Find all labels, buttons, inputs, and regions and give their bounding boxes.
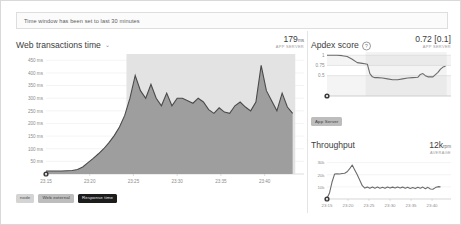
svg-text:1: 1 xyxy=(322,53,325,58)
chevron-down-icon[interactable]: ⌄ xyxy=(105,41,110,48)
svg-text:23:40: 23:40 xyxy=(427,203,439,208)
throughput-value-group: 12krpm AVERAGE xyxy=(429,140,451,155)
apdex-value-group: 0.72 [0.1] APP SERVER xyxy=(415,34,451,49)
svg-text:23:30: 23:30 xyxy=(385,203,397,208)
throughput-header: Throughput 12krpm AVERAGE xyxy=(311,140,451,155)
time-window-banner: Time window has been set to last 30 minu… xyxy=(16,12,448,29)
svg-text:23:15: 23:15 xyxy=(40,179,52,184)
svg-text:50 ms: 50 ms xyxy=(30,159,43,164)
apdex-score-panel: Apdex score? 0.72 [0.1] APP SERVER 0.50.… xyxy=(311,34,451,126)
svg-text:23:30: 23:30 xyxy=(171,179,183,184)
svg-text:150 ms: 150 ms xyxy=(28,134,44,139)
svg-text:23:20: 23:20 xyxy=(343,203,355,208)
throughput-value-number: 12k xyxy=(429,140,443,150)
throughput-svg: 10k20k30k 23:1523:2023:2523:3023:3523:40 xyxy=(311,156,451,212)
throughput-value: 12krpm xyxy=(429,140,451,150)
svg-text:250 ms: 250 ms xyxy=(28,109,44,114)
svg-text:300 ms: 300 ms xyxy=(28,96,44,101)
web-transactions-value-group: 179ms APP SERVER xyxy=(276,34,304,49)
monitoring-dashboard: Time window has been set to last 30 minu… xyxy=(0,0,461,225)
throughput-chart[interactable]: 10k20k30k 23:1523:2023:2523:3023:3523:40 xyxy=(311,156,451,212)
svg-text:450 ms: 450 ms xyxy=(28,58,44,63)
svg-text:350 ms: 350 ms xyxy=(28,83,44,88)
throughput-panel: Throughput 12krpm AVERAGE 10k20k30k 23:1… xyxy=(311,140,451,212)
web-transactions-value-number: 179 xyxy=(284,34,298,44)
svg-text:0.75: 0.75 xyxy=(316,63,325,68)
throughput-gridlines xyxy=(327,163,451,199)
web-transactions-time-panel: Web transactions time⌄ 179ms APP SERVER … xyxy=(16,34,304,212)
throughput-line-series xyxy=(324,165,440,202)
svg-text:23:25: 23:25 xyxy=(364,203,376,208)
web-transactions-y-axis-labels: 50 ms100 ms150 ms200 ms250 ms300 ms350 m… xyxy=(28,58,44,164)
web-transactions-legend: node Web external Response time xyxy=(16,194,117,203)
legend-tag-node[interactable]: node xyxy=(16,194,34,203)
apdex-legend: App Server xyxy=(311,109,342,127)
svg-text:23:35: 23:35 xyxy=(215,179,227,184)
throughput-subtitle: AVERAGE xyxy=(429,150,451,155)
web-transactions-header: Web transactions time⌄ 179ms APP SERVER xyxy=(16,34,304,52)
web-transactions-x-axis-labels: 23:1523:2023:2523:3023:3523:40 xyxy=(40,174,271,184)
web-transactions-chart[interactable]: 50 ms100 ms150 ms200 ms250 ms300 ms350 m… xyxy=(16,52,304,192)
legend-tag-response-time[interactable]: Response time xyxy=(78,194,117,203)
svg-text:23:40: 23:40 xyxy=(259,179,271,184)
web-transactions-value-unit: ms xyxy=(298,38,304,43)
apdex-title: Apdex score xyxy=(311,40,359,50)
throughput-x-axis-labels: 23:1523:2023:2523:3023:3523:40 xyxy=(322,199,439,208)
svg-text:23:25: 23:25 xyxy=(128,179,140,184)
apdex-subtitle: APP SERVER xyxy=(415,44,451,49)
svg-text:23:20: 23:20 xyxy=(84,179,96,184)
time-window-banner-text: Time window has been set to last 30 minu… xyxy=(17,18,140,24)
svg-text:100 ms: 100 ms xyxy=(28,147,44,152)
svg-text:23:35: 23:35 xyxy=(406,203,418,208)
web-transactions-value: 179ms xyxy=(276,34,304,44)
svg-text:30k: 30k xyxy=(317,160,325,165)
svg-text:400 ms: 400 ms xyxy=(28,71,44,76)
svg-text:10k: 10k xyxy=(317,185,325,190)
svg-text:23:15: 23:15 xyxy=(322,203,334,208)
column-divider xyxy=(307,31,308,213)
web-transactions-subtitle: APP SERVER xyxy=(276,44,304,49)
svg-text:0.5: 0.5 xyxy=(318,73,325,78)
legend-tag-web-external[interactable]: Web external xyxy=(38,194,74,203)
svg-text:200 ms: 200 ms xyxy=(28,121,44,126)
web-transactions-title: Web transactions time xyxy=(16,40,101,50)
legend-tag-app-server[interactable]: App Server xyxy=(311,117,342,127)
apdex-y-axis-labels: 0.50.751 xyxy=(316,53,325,78)
throughput-title: Throughput xyxy=(311,140,355,150)
apdex-selection-region[interactable] xyxy=(366,52,447,96)
throughput-y-axis-labels: 10k20k30k xyxy=(317,160,325,189)
throughput-value-unit: rpm xyxy=(443,144,451,149)
apdex-chart[interactable]: 0.50.751 xyxy=(311,50,451,107)
apdex-value: 0.72 [0.1] xyxy=(415,34,451,44)
web-transactions-title-group[interactable]: Web transactions time⌄ xyxy=(16,34,110,52)
svg-text:20k: 20k xyxy=(317,173,325,178)
apdex-svg: 0.50.751 xyxy=(311,50,451,107)
web-transactions-svg: 50 ms100 ms150 ms200 ms250 ms300 ms350 m… xyxy=(16,52,304,192)
